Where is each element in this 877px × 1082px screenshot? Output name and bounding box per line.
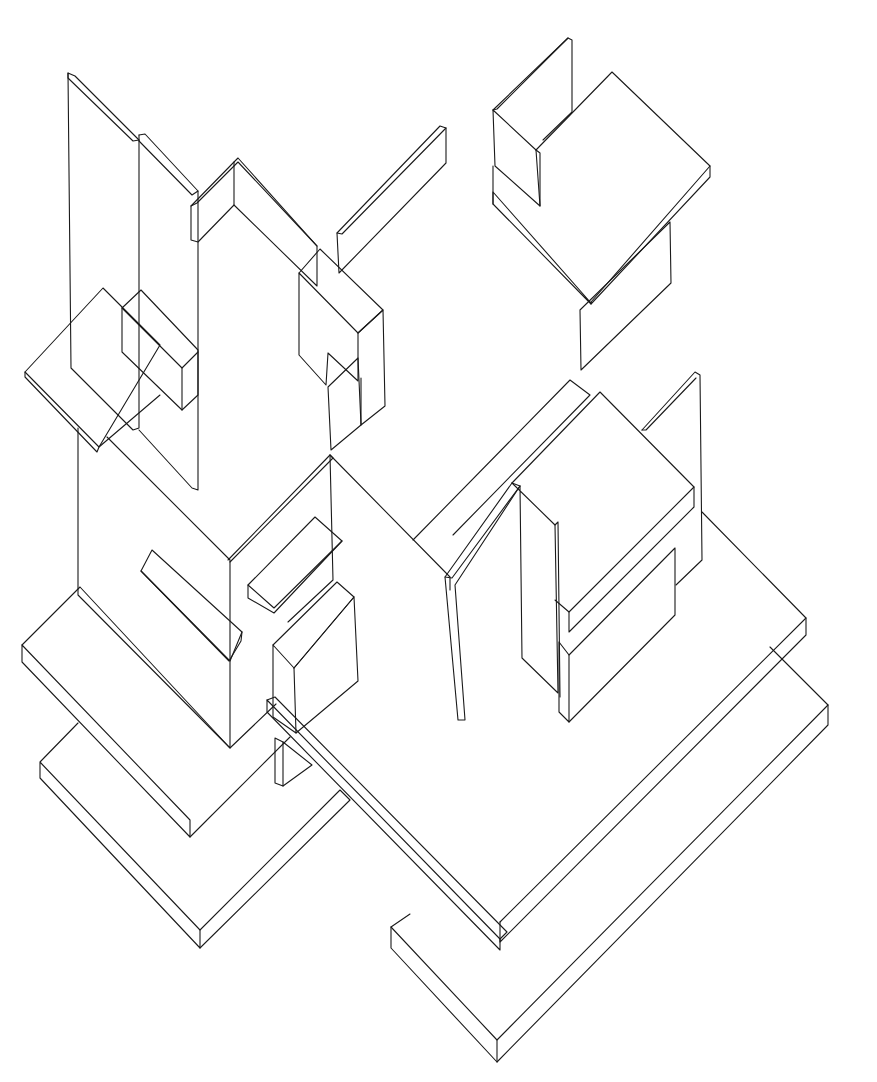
- right-lower-box: [559, 642, 569, 722]
- middle-box-side: [358, 310, 385, 425]
- tall-left-wall: [68, 73, 139, 430]
- left-shelf-box: [122, 290, 198, 410]
- left-lower-slab: [40, 723, 200, 948]
- mid-v-wall-right: [330, 455, 450, 590]
- center-small-bar-edge: [248, 541, 342, 608]
- left-floating-slab-top: [25, 288, 160, 447]
- right-lower-box-top: [569, 548, 675, 722]
- left-bar-edge: [141, 571, 242, 661]
- second-wall: [139, 134, 198, 490]
- mid-v-wall-left: [228, 455, 333, 562]
- left-base-slab-top: [22, 587, 276, 748]
- top-right-slat: [337, 126, 446, 273]
- top-right-chair-side: [493, 110, 540, 206]
- center-small-bar: [248, 517, 342, 613]
- center-block-side: [294, 597, 358, 733]
- right-l-wall-left: [445, 483, 520, 720]
- tall-left-wall-edge: [68, 73, 139, 141]
- long-diagonal-beam-top: [267, 697, 507, 939]
- second-wall-edge: [139, 135, 198, 195]
- right-base-slab-top: [500, 512, 806, 922]
- top-right-hanging-panel: [580, 222, 671, 370]
- middle-box-lower: [328, 358, 361, 450]
- line-drawing: [0, 0, 877, 1082]
- lower-left-wall: [78, 428, 230, 748]
- left-bar: [141, 550, 242, 661]
- right-back-panel: [642, 372, 702, 585]
- left-lower-slab-right: [200, 790, 350, 948]
- top-right-seat-front: [493, 192, 591, 304]
- right-base-slab-edge: [500, 618, 806, 942]
- right-big-slab-top: [413, 380, 590, 540]
- top-right-slat-edge: [337, 128, 446, 234]
- right-upper-box-top: [512, 392, 694, 612]
- right-lower-slab-top: [391, 705, 828, 1040]
- center-block-top: [273, 582, 354, 668]
- top-l-wall-edge: [191, 162, 317, 246]
- center-block-front: [273, 645, 296, 733]
- left-base-slab-edge: [22, 645, 190, 837]
- middle-box-front: [299, 273, 358, 385]
- long-diagonal-beam: [267, 700, 500, 950]
- pillar-right: [283, 742, 312, 786]
- right-back-panel-edge: [642, 378, 696, 430]
- right-tall-panel: [512, 483, 558, 693]
- top-l-wall-front: [191, 158, 317, 286]
- middle-box-top: [299, 249, 383, 333]
